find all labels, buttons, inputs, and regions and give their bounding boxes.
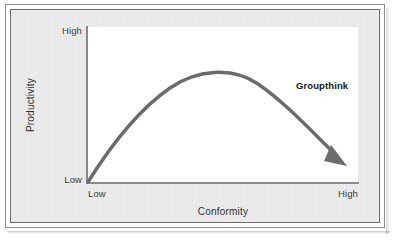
figure-drop-shadow-right [386,8,390,234]
figure-root: Productivity High Low Low High Conformit… [0,0,397,245]
y-axis-line [86,26,88,184]
y-axis-title-wrapper: Productivity [22,27,38,183]
x-tick-label-high: High [327,188,358,199]
y-tick-label-high: High [48,25,82,36]
y-axis-title: Productivity [25,78,36,132]
y-tick-label-low: Low [48,174,82,185]
x-axis-title: Conformity [88,206,358,217]
x-axis-line [87,182,359,184]
curve-annotation-groupthink: Groupthink [296,80,348,91]
figure-drop-shadow [8,231,390,234]
plot-area [88,27,358,183]
x-tick-label-low: Low [88,188,106,199]
